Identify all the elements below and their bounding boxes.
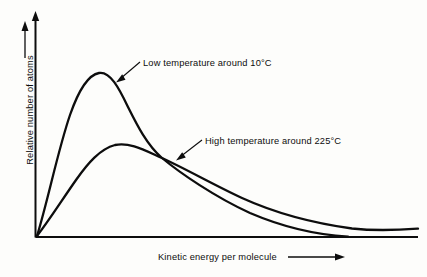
y-axis-arrow-icon bbox=[32, 11, 39, 21]
y-axis-label-container: Relative number of atoms bbox=[19, 35, 35, 185]
x-axis-label: Kinetic energy per molecule bbox=[158, 252, 277, 262]
curve-low-temperature bbox=[37, 73, 348, 237]
low-temperature-label: Low temperature around 10°C bbox=[143, 58, 272, 68]
high-temperature-label: High temperature around 225°C bbox=[205, 136, 341, 146]
x-axis-label-arrow-icon bbox=[335, 253, 345, 260]
distribution-chart-figure: Low temperature around 10°C High tempera… bbox=[0, 0, 427, 277]
curve-high-temperature bbox=[37, 144, 418, 236]
y-axis-label: Relative number of atoms bbox=[25, 55, 35, 165]
y-axis-label-arrow-icon bbox=[22, 21, 29, 31]
